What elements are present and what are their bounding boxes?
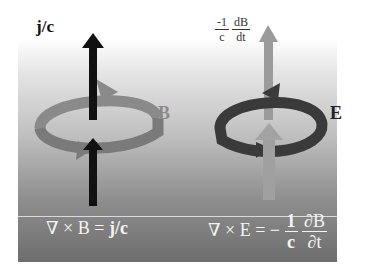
faraday-equation: ∇ × E = − 1c ∂B∂t <box>208 212 327 251</box>
b-loop-icon <box>40 79 158 128</box>
current-arrow-lower-icon <box>83 138 103 206</box>
b-field-label: B <box>158 103 170 124</box>
current-label: j/c <box>36 17 54 37</box>
dbdt-label: -1c dBdt <box>215 16 250 43</box>
e-field-label: E <box>330 103 342 124</box>
ampere-equation: ∇ × B = j/c <box>46 217 128 239</box>
